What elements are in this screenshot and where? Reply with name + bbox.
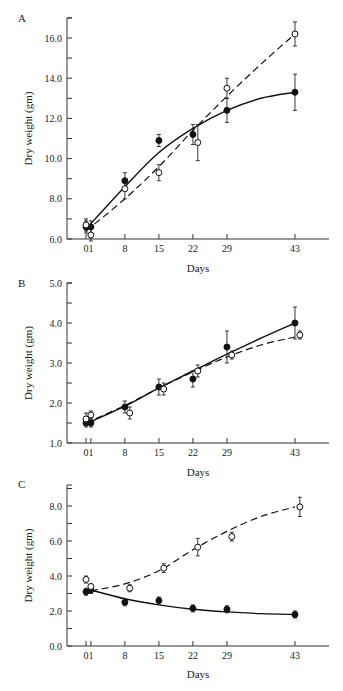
x-tick-label: 29 bbox=[222, 243, 232, 254]
panel-a: A6.08.010.012.014.016.001815222943DaysDr… bbox=[18, 12, 329, 274]
filled-circle-marker bbox=[156, 138, 162, 144]
x-tick-label: 43 bbox=[290, 447, 300, 458]
open-circle-marker bbox=[88, 584, 94, 590]
open-circle-marker bbox=[297, 332, 303, 338]
x-tick-label: 29 bbox=[222, 447, 232, 458]
y-tick-label: 8.0 bbox=[50, 501, 63, 512]
filled-circle-marker bbox=[292, 89, 298, 95]
filled-circle-marker bbox=[122, 599, 128, 605]
y-tick-label: 6.0 bbox=[50, 536, 63, 547]
x-tick-label: 01 bbox=[83, 650, 93, 661]
y-tick-label: 3.0 bbox=[50, 358, 63, 369]
open-fit-curve bbox=[86, 34, 295, 231]
y-tick-label: 4.0 bbox=[50, 571, 63, 582]
y-tick-label: 14.0 bbox=[45, 73, 63, 84]
x-axis-title: Days bbox=[187, 466, 210, 478]
open-circle-marker bbox=[156, 170, 162, 176]
filled-circle-marker bbox=[190, 376, 196, 382]
open-circle-marker bbox=[229, 352, 235, 358]
y-tick-label: 8.0 bbox=[50, 193, 63, 204]
y-tick-label: 10.0 bbox=[45, 153, 63, 164]
filled-circle-marker bbox=[224, 606, 230, 612]
y-tick-label: 12.0 bbox=[45, 113, 63, 124]
panel-label: C bbox=[18, 478, 25, 490]
x-tick-label: 22 bbox=[188, 243, 198, 254]
open-circle-marker bbox=[292, 31, 298, 37]
y-tick-label: 4.0 bbox=[50, 318, 63, 329]
filled-circle-marker bbox=[292, 320, 298, 326]
open-circle-marker bbox=[122, 186, 128, 192]
x-tick-label: 01 bbox=[83, 243, 93, 254]
x-tick-label: 22 bbox=[188, 650, 198, 661]
filled-circle-marker bbox=[156, 598, 162, 604]
x-tick-label: 15 bbox=[154, 243, 164, 254]
figure: A6.08.010.012.014.016.001815222943DaysDr… bbox=[0, 0, 343, 691]
x-tick-label: 8 bbox=[122, 243, 127, 254]
x-tick-label: 15 bbox=[154, 650, 164, 661]
y-tick-label: 1.0 bbox=[50, 438, 63, 449]
open-circle-marker bbox=[224, 85, 230, 91]
x-tick-label: 43 bbox=[290, 243, 300, 254]
filled-circle-marker bbox=[190, 605, 196, 611]
open-circle-marker bbox=[83, 222, 89, 228]
x-tick-label: 01 bbox=[83, 447, 93, 458]
open-circle-marker bbox=[195, 140, 201, 146]
y-tick-label: 16.0 bbox=[45, 33, 63, 44]
x-tick-label: 15 bbox=[154, 447, 164, 458]
filled-circle-marker bbox=[292, 612, 298, 618]
x-axis-title: Days bbox=[187, 262, 210, 274]
open-circle-marker bbox=[161, 386, 167, 392]
panel-label: B bbox=[18, 277, 25, 289]
panel-b: B1.02.03.04.05.001815222943DaysDry weigh… bbox=[18, 277, 329, 478]
x-axis-title: Days bbox=[187, 668, 210, 680]
x-tick-label: 22 bbox=[188, 447, 198, 458]
open-circle-marker bbox=[229, 534, 235, 540]
filled-circle-marker bbox=[224, 107, 230, 113]
open-circle-marker bbox=[83, 577, 89, 583]
filled-circle-marker bbox=[224, 344, 230, 350]
open-circle-marker bbox=[127, 585, 133, 591]
panel-label: A bbox=[18, 12, 26, 24]
y-tick-label: 2.0 bbox=[50, 606, 63, 617]
open-circle-marker bbox=[195, 544, 201, 550]
filled-fit-curve bbox=[86, 92, 295, 229]
open-circle-marker bbox=[88, 232, 94, 238]
y-axis-title: Dry weight (gm) bbox=[22, 528, 35, 602]
y-tick-label: 0.0 bbox=[50, 641, 63, 652]
x-tick-label: 29 bbox=[222, 650, 232, 661]
y-axis-title: Dry weight (gm) bbox=[22, 326, 35, 400]
open-fit-curve bbox=[91, 507, 295, 591]
open-circle-marker bbox=[88, 412, 94, 418]
y-tick-label: 5.0 bbox=[50, 278, 63, 289]
open-circle-marker bbox=[297, 504, 303, 510]
y-tick-label: 2.0 bbox=[50, 398, 63, 409]
open-circle-marker bbox=[195, 368, 201, 374]
open-circle-marker bbox=[127, 410, 133, 416]
panel-c: C0.02.04.06.08.001815222943DaysDry weigh… bbox=[18, 478, 329, 680]
x-tick-label: 8 bbox=[122, 650, 127, 661]
x-tick-label: 43 bbox=[290, 650, 300, 661]
x-tick-label: 8 bbox=[122, 447, 127, 458]
y-tick-label: 6.0 bbox=[50, 234, 63, 245]
open-circle-marker bbox=[161, 565, 167, 571]
y-axis-title: Dry weight (gm) bbox=[22, 91, 35, 165]
